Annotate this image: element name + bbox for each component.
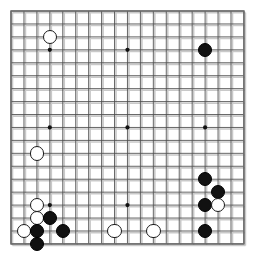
go-board-container: [0, 0, 258, 270]
black-stone[interactable]: [30, 224, 44, 238]
white-stone[interactable]: [43, 30, 57, 44]
star-point: [48, 203, 52, 207]
star-point: [48, 48, 52, 52]
black-stone[interactable]: [30, 237, 44, 251]
white-stone[interactable]: [107, 224, 121, 238]
star-point: [125, 203, 129, 207]
white-stone[interactable]: [146, 224, 160, 238]
black-stone[interactable]: [43, 211, 57, 225]
star-point: [48, 125, 52, 129]
star-point: [125, 125, 129, 129]
black-stone[interactable]: [56, 224, 70, 238]
star-point: [125, 48, 129, 52]
white-stone[interactable]: [30, 146, 44, 160]
star-point: [203, 125, 207, 129]
